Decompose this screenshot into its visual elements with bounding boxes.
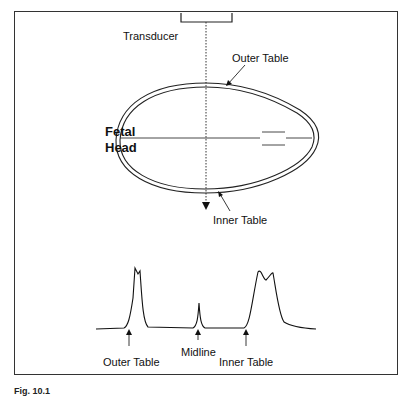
inner-table-label-bottom: Inner Table bbox=[219, 356, 273, 368]
figure-caption: Fig. 10.1 bbox=[14, 386, 50, 396]
fetal-head-label: Fetal Head bbox=[105, 124, 137, 156]
midline-label: Midline bbox=[181, 346, 216, 358]
outer-table-label-bottom: Outer Table bbox=[103, 356, 160, 368]
transducer-shape bbox=[181, 13, 232, 22]
transducer-label: Transducer bbox=[123, 30, 178, 42]
outer-table-label-top: Outer Table bbox=[232, 52, 289, 64]
inner-table-label-top: Inner Table bbox=[213, 214, 267, 226]
a-mode-trace bbox=[96, 268, 316, 329]
beam-arrowhead bbox=[202, 202, 210, 210]
